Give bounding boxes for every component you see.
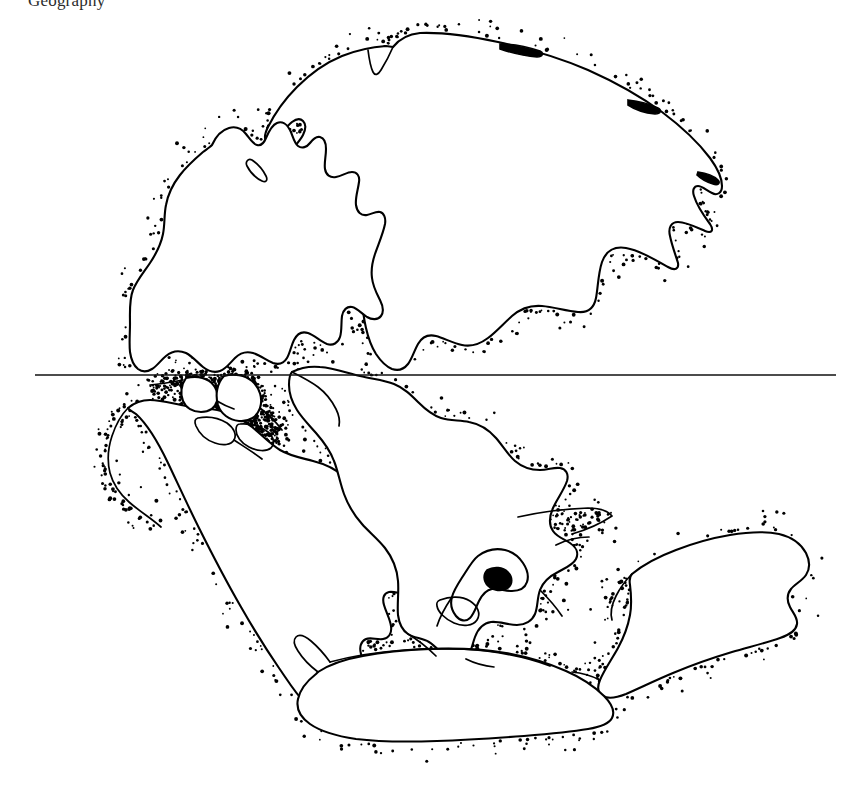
landmass-antarctica: [298, 649, 614, 742]
landmass-australia: [598, 532, 809, 698]
island-block-1: [181, 377, 217, 412]
india-accent-blob: [484, 568, 512, 591]
figure-root: Geography: [0, 0, 860, 796]
pangaea-map: [0, 0, 860, 796]
